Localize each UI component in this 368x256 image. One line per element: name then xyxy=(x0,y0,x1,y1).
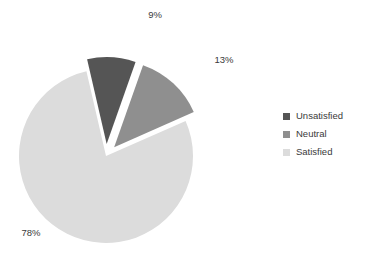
legend-swatch-icon xyxy=(283,149,290,156)
pie-chart: 9%13%78% UnsatisfiedNeutralSatisfied xyxy=(0,0,368,256)
legend-item-label: Unsatisfied xyxy=(296,111,343,121)
legend-swatch-icon xyxy=(283,131,290,138)
legend-item-neutral[interactable]: Neutral xyxy=(283,125,368,143)
legend-item-satisfied[interactable]: Satisfied xyxy=(283,143,368,161)
slice-value-label-neutral: 13% xyxy=(214,54,234,65)
slice-value-label-unsatisfied: 9% xyxy=(148,9,162,20)
legend-item-label: Satisfied xyxy=(296,147,332,157)
legend-swatch-icon xyxy=(283,113,290,120)
legend-item-unsatisfied[interactable]: Unsatisfied xyxy=(283,107,368,125)
legend-item-label: Neutral xyxy=(296,129,327,139)
chart-legend: UnsatisfiedNeutralSatisfied xyxy=(283,107,368,161)
slice-value-label-satisfied: 78% xyxy=(21,227,41,238)
